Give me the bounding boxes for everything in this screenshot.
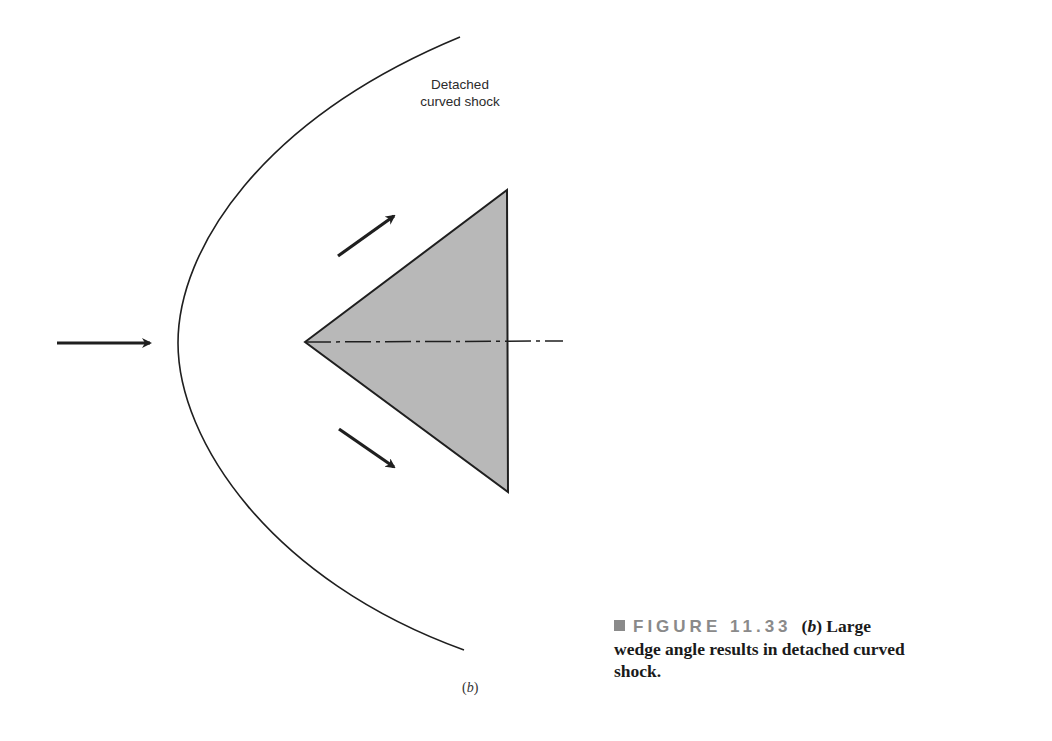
caption-text: wedge angle results in detached curved s… [614, 638, 944, 682]
shock-label: Detached curved shock [395, 76, 525, 110]
subfigure-label: (b) [462, 680, 478, 696]
figure-number: FIGURE 11.33 [633, 617, 792, 636]
caption-part-letter: b [807, 616, 816, 636]
shock-label-line2: curved shock [395, 93, 525, 110]
caption-square-icon [614, 620, 625, 631]
lower-flow-arrow-icon [339, 429, 394, 467]
shock-label-line1: Detached [395, 76, 525, 93]
figure-caption: FIGURE 11.33(b) Large wedge angle result… [614, 615, 1034, 682]
subfigure-letter: b [467, 680, 474, 695]
upper-flow-arrow-icon [338, 216, 394, 256]
caption-text-line1: Large [822, 616, 871, 636]
